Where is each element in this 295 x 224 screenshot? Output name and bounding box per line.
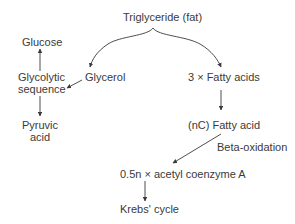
node-pyruvic-acid: Pyruvic acid: [20, 119, 60, 143]
node-triglyceride: Triglyceride (fat): [123, 11, 202, 23]
glycolytic-line-1: Glycolytic: [18, 71, 64, 83]
edge-triglyceride-glycerol: [90, 28, 153, 67]
node-nc-fatty-acid: (nC) Fatty acid: [188, 119, 260, 131]
diagram-edges: [0, 0, 295, 224]
glycolytic-line-2: sequence: [18, 83, 64, 95]
node-glycerol: Glycerol: [85, 71, 125, 83]
node-krebs-cycle: Krebs' cycle: [120, 203, 179, 215]
metabolism-diagram: Triglyceride (fat) Glucose Glycolytic se…: [0, 0, 295, 224]
node-glucose: Glucose: [22, 36, 62, 48]
node-acetyl-coa: 0.5n × acetyl coenzyme A: [120, 168, 246, 180]
node-glycolytic-sequence: Glycolytic sequence: [18, 71, 64, 95]
edge-nc-acetyl: [173, 134, 221, 163]
node-fatty-acids: 3 × Fatty acids: [188, 71, 260, 83]
edge-glycerol-glycolytic: [67, 80, 82, 88]
edge-triglyceride-fatty-acids: [153, 28, 221, 67]
pyruvic-line-1: Pyruvic: [20, 119, 60, 131]
pyruvic-line-2: acid: [20, 131, 60, 143]
edge-label-beta-oxidation: Beta-oxidation: [217, 141, 287, 153]
